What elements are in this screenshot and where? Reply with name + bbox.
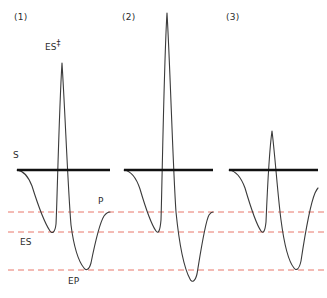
panel-3-curve-group bbox=[229, 131, 318, 270]
panel-3-energy-curve bbox=[229, 131, 318, 270]
panel-number-2: (2) bbox=[122, 12, 135, 22]
double-dagger-icon: ‡ bbox=[56, 39, 60, 48]
panel-2-energy-curve bbox=[124, 13, 213, 281]
panel-2-curve-group bbox=[124, 13, 213, 281]
es-complex-level-label: ES bbox=[20, 237, 31, 247]
reaction-coordinate-figure: (1) (2) (3) ES‡ S P ES EP bbox=[0, 0, 327, 298]
panel-number-1: (1) bbox=[14, 12, 27, 22]
transition-state-label: ES‡ bbox=[45, 42, 60, 52]
substrate-level-label: S bbox=[13, 150, 19, 160]
product-level-label: P bbox=[98, 196, 103, 206]
transition-state-base: ES bbox=[45, 42, 56, 52]
panel-number-3: (3) bbox=[226, 12, 239, 22]
ep-complex-level-label: EP bbox=[68, 276, 79, 286]
